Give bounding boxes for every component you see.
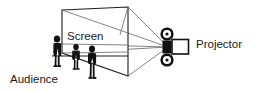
- audience-figure-tall-left: [53, 35, 61, 67]
- projector-label: Projector: [196, 38, 242, 50]
- diagram-canvas: Screen Audience Projector: [0, 0, 266, 92]
- projector-housing: [172, 40, 189, 55]
- audience-label: Audience: [10, 73, 58, 85]
- projector-reel-upper-hub: [165, 32, 168, 35]
- projector-reel-lower-hub: [165, 58, 168, 61]
- light-ray-top-right: [128, 7, 168, 47]
- projector-device: [160, 27, 188, 66]
- screen-label: Screen: [67, 30, 103, 42]
- projection-setup-diagram: Screen Audience Projector: [0, 0, 266, 92]
- projector-lens-block: [163, 41, 172, 54]
